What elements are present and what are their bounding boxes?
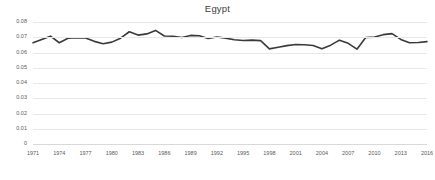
x-axis-tick-label: 2010 (368, 150, 380, 156)
x-axis-tick-label: 2001 (290, 150, 302, 156)
gridline (33, 68, 427, 69)
gridline (33, 37, 427, 38)
y-axis-tick-label: 0 (24, 141, 27, 147)
y-axis-tick-label: 0.04 (16, 80, 27, 86)
x-axis-tick-label: 2004 (316, 150, 328, 156)
gridline (33, 129, 427, 130)
line-chart: Egypt 0.080.070.060.050.040.030.020.010 … (0, 0, 435, 180)
x-axis-tick-label: 1980 (106, 150, 118, 156)
chart-title: Egypt (0, 3, 435, 14)
y-axis-tick-label: 0.01 (16, 126, 27, 132)
x-axis-tick-label: 2013 (395, 150, 407, 156)
x-axis-tick-label: 1989 (184, 150, 196, 156)
series-path (33, 30, 427, 49)
x-axis-tick-label: 2007 (342, 150, 354, 156)
x-axis-tick-label: 1986 (158, 150, 170, 156)
y-axis-tick-labels: 0.080.070.060.050.040.030.020.010 (0, 22, 30, 144)
gridline (33, 53, 427, 54)
y-axis-tick-label: 0.06 (16, 50, 27, 56)
gridline (33, 83, 427, 84)
y-axis-tick-label: 0.02 (16, 111, 27, 117)
x-axis-tick-labels: 1971197419771980198319861989199219951998… (0, 150, 435, 164)
y-axis-tick-label: 0.03 (16, 96, 27, 102)
plot-area (33, 22, 427, 144)
x-axis-baseline (33, 144, 427, 145)
x-axis-tick-label: 1977 (79, 150, 91, 156)
y-axis-tick-label: 0.07 (16, 35, 27, 41)
x-axis-tick-label: 1995 (237, 150, 249, 156)
x-axis-tick-label: 1971 (27, 150, 39, 156)
x-axis-tick-label: 1992 (211, 150, 223, 156)
gridline (33, 98, 427, 99)
x-axis-tick-label: 1983 (132, 150, 144, 156)
y-axis-tick-label: 0.05 (16, 65, 27, 71)
gridline (33, 114, 427, 115)
x-axis-tick-label: 1974 (53, 150, 65, 156)
x-axis-tick-label: 1998 (263, 150, 275, 156)
y-axis-tick-label: 0.08 (16, 19, 27, 25)
gridline (33, 22, 427, 23)
x-axis-tick-label: 2016 (421, 150, 433, 156)
